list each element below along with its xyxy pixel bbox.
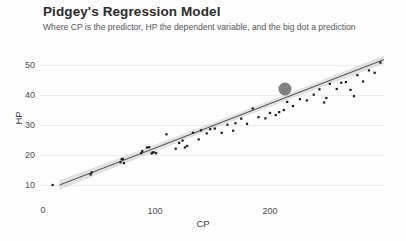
data-point: [119, 161, 121, 163]
page-title: Pidgey's Regression Model: [43, 4, 221, 19]
data-point: [155, 152, 157, 154]
prediction-point: [278, 83, 291, 96]
x-tick-label: 100: [147, 206, 162, 216]
x-axis-zero-label: 0: [40, 205, 45, 215]
data-point: [340, 82, 342, 84]
data-point: [123, 162, 125, 164]
data-point: [221, 132, 223, 134]
data-point: [198, 138, 200, 140]
data-point: [362, 80, 364, 82]
data-point: [182, 140, 184, 142]
data-point: [325, 97, 327, 99]
data-point: [283, 109, 285, 111]
data-point: [175, 148, 177, 150]
data-point: [368, 69, 370, 71]
data-point: [323, 101, 325, 103]
data-point: [186, 145, 188, 147]
data-point: [329, 83, 331, 85]
data-point: [214, 128, 216, 130]
data-point: [313, 94, 315, 96]
y-tick-label: 10: [5, 180, 35, 190]
data-point: [275, 114, 277, 116]
data-point: [353, 95, 355, 97]
data-point: [165, 133, 167, 135]
data-point: [278, 111, 280, 113]
data-point: [246, 123, 248, 125]
data-point: [269, 112, 271, 114]
data-point: [192, 132, 194, 134]
data-point: [264, 117, 266, 119]
data-point: [336, 88, 338, 90]
data-point: [234, 122, 236, 124]
data-point: [252, 107, 254, 109]
data-point: [226, 124, 228, 126]
data-marks-layer: [40, 50, 385, 200]
data-point: [146, 146, 148, 148]
y-tick-label: 50: [5, 60, 35, 70]
data-point: [299, 98, 301, 100]
data-point: [209, 128, 211, 130]
data-point: [91, 171, 93, 173]
data-point: [374, 72, 376, 74]
data-point: [122, 158, 124, 160]
data-point: [141, 150, 143, 152]
data-point: [292, 105, 294, 107]
data-point: [153, 151, 155, 153]
data-point: [240, 118, 242, 120]
data-point: [349, 89, 351, 91]
chart-subtitle: Where CP is the predictor, HP the depend…: [43, 22, 356, 32]
y-tick-label: 40: [5, 90, 35, 100]
plot-area: 1020304050 100200: [40, 50, 385, 200]
data-point: [257, 116, 259, 118]
x-axis-title: CP: [0, 218, 406, 229]
y-tick-label: 30: [5, 120, 35, 130]
data-point: [306, 99, 308, 101]
regression-line: [60, 60, 384, 185]
data-point: [379, 62, 381, 64]
data-point: [52, 184, 54, 186]
chart-container: Pidgey's Regression Model Where CP is th…: [0, 0, 406, 241]
data-point: [148, 146, 150, 148]
data-point: [184, 146, 186, 148]
data-point: [90, 173, 92, 175]
data-point: [318, 88, 320, 90]
data-point: [232, 130, 234, 132]
data-point: [286, 101, 288, 103]
data-point: [345, 81, 347, 83]
data-point: [178, 142, 180, 144]
data-point: [206, 132, 208, 134]
y-tick-label: 20: [5, 150, 35, 160]
data-point: [140, 152, 142, 154]
data-point: [200, 129, 202, 131]
x-tick-label: 200: [262, 206, 277, 216]
data-point: [356, 74, 358, 76]
